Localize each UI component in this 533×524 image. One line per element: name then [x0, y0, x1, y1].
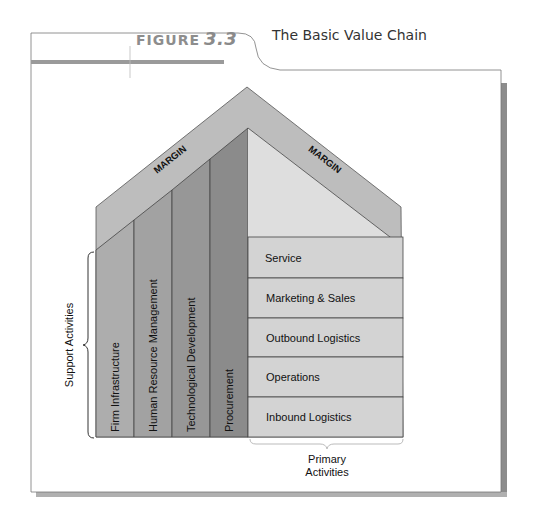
figure-label-word: FIGURE [136, 32, 200, 48]
primary-item-operations: Operations [266, 371, 320, 383]
value-chain-figure: MARGIN MARGIN Firm Infrastructure Human … [0, 0, 533, 524]
support-item-hr-management: Human Resource Management [147, 279, 159, 432]
support-item-firm-infrastructure: Firm Infrastructure [109, 342, 121, 432]
figure-title: The Basic Value Chain [272, 27, 427, 43]
primary-item-inbound-logistics: Inbound Logistics [266, 411, 352, 423]
figure-number: 3.3 [204, 28, 237, 49]
primary-activities-label-line1: Primary [308, 453, 346, 465]
figure-container: MARGIN MARGIN Firm Infrastructure Human … [0, 0, 533, 524]
frame-shadow-bottom [36, 492, 507, 497]
header-rule [31, 60, 224, 64]
primary-item-service: Service [265, 252, 302, 264]
frame-shadow-right [501, 83, 507, 497]
support-item-procurement: Procurement [223, 369, 235, 432]
primary-item-outbound-logistics: Outbound Logistics [266, 332, 361, 344]
support-activities-label: Support Activities [63, 302, 75, 387]
primary-item-marketing-sales: Marketing & Sales [266, 292, 356, 304]
support-item-tech-development: Technological Development [185, 297, 197, 432]
figure-label: FIGURE3.3 [136, 28, 237, 49]
primary-activities-label-line2: Activities [305, 466, 349, 478]
